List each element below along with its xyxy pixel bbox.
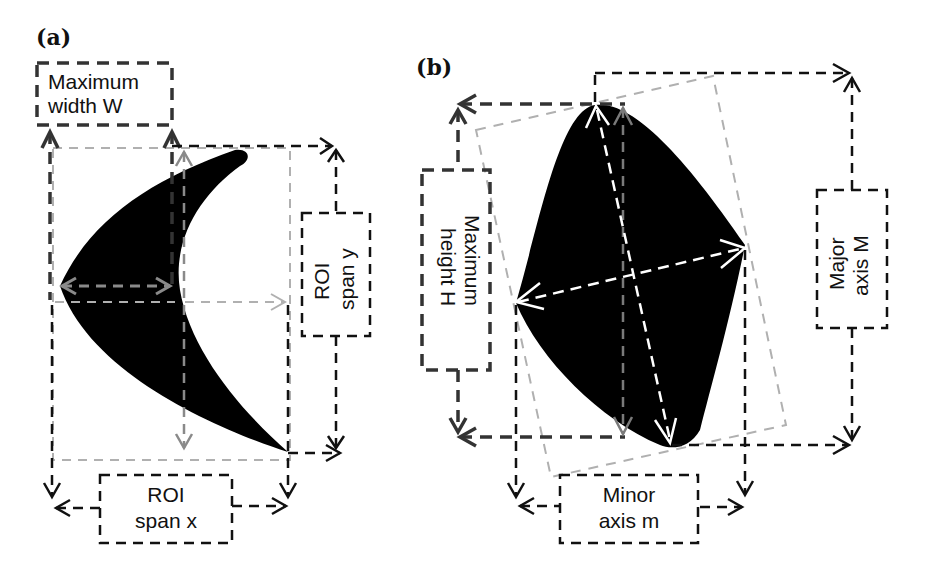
roi-span-y-label-line2: span y — [335, 248, 358, 310]
max-width-label-line1: Maximum — [48, 70, 139, 93]
max-width-label-line2: width W — [47, 94, 123, 117]
major-axis-label-line2: axis M — [849, 235, 872, 296]
roi-span-x-label-line2: span x — [135, 509, 197, 532]
figure-canvas: (a) Maximum width W — [0, 0, 925, 570]
roi-span-y-label-line1: ROI — [310, 263, 333, 300]
minor-axis-label-line2: axis m — [599, 509, 660, 532]
panel-b-label: (b) — [416, 54, 452, 80]
panel-a-label: (a) — [36, 24, 71, 50]
minor-axis-label-line1: Minor — [603, 483, 656, 506]
roi-span-x-label-line1: ROI — [147, 483, 184, 506]
max-height-label-line2: height H — [437, 228, 460, 306]
major-axis-label-line1: Major — [825, 237, 848, 290]
max-height-label-line1: Maximum — [461, 215, 484, 306]
